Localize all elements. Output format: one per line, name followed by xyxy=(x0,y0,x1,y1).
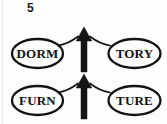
puzzle-page: 5 DORM TORY FURN TU xyxy=(0,0,167,124)
up-arrow-icon xyxy=(76,27,92,72)
connector-left-2 xyxy=(58,84,78,93)
connector-right-2 xyxy=(90,84,110,93)
puzzle-row-2: FURN TURE xyxy=(12,74,161,119)
word-right-1: TORY xyxy=(116,46,154,61)
word-left-2: FURN xyxy=(19,93,56,108)
puzzle-row-1: DORM TORY xyxy=(12,27,161,72)
connector-left-1 xyxy=(58,37,78,46)
word-right-2: TURE xyxy=(116,93,153,108)
up-arrow-icon xyxy=(76,74,92,119)
connector-right-1 xyxy=(90,37,110,46)
word-left-1: DORM xyxy=(17,46,59,61)
puzzle-graphic: DORM TORY FURN TURE xyxy=(0,0,167,124)
